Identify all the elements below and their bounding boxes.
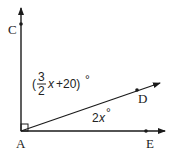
degree-symbol: ° [106, 106, 111, 120]
point-c-dot [19, 22, 23, 26]
point-e-dot [144, 129, 148, 133]
label-d: D [138, 91, 147, 106]
coefficient: 2 [92, 111, 99, 125]
label-e: E [146, 136, 154, 151]
label-a: A [16, 136, 26, 151]
angle-cad-label: ( 3 2 x +20) ° [32, 70, 90, 98]
angle-diagram: C A D E ( 3 2 x +20) ° 2 x ° [0, 0, 173, 154]
variable-x: x [47, 77, 55, 91]
angle-cad-rest: +20) [56, 77, 80, 91]
variable-x: x [98, 111, 106, 125]
fraction-numerator: 3 [38, 70, 45, 84]
angle-dae-label: 2 x ° [92, 106, 111, 125]
label-c: C [8, 22, 17, 37]
open-paren: ( [32, 77, 36, 91]
degree-symbol: ° [85, 73, 90, 87]
fraction-denominator: 2 [38, 84, 45, 98]
